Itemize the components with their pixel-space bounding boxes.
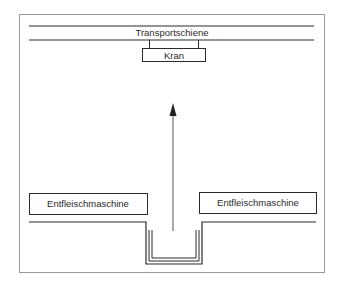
pit-liner-inner [152, 230, 196, 258]
pit-liner-middle [149, 230, 199, 261]
arrow-up-icon [170, 103, 177, 116]
machine-right: Entfleischmaschine [200, 193, 317, 214]
transport-rail: Transportschiene [29, 26, 314, 40]
crane: Kran [143, 40, 206, 62]
machine-left-label: Entfleischmaschine [47, 198, 129, 209]
lift-arrow [170, 103, 177, 231]
rail-label: Transportschiene [135, 27, 208, 38]
plant-layout-diagram: Transportschiene Kran Entfleischmaschine… [0, 0, 340, 285]
crane-label: Kran [164, 50, 184, 61]
machine-right-label: Entfleischmaschine [217, 197, 299, 208]
machine-left: Entfleischmaschine [30, 194, 148, 215]
